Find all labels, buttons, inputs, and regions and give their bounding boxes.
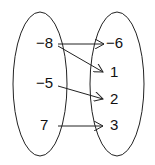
- range-value-2: 2: [110, 90, 118, 107]
- range-value-neg6: −6: [106, 34, 123, 51]
- domain-value-7: 7: [40, 116, 48, 133]
- domain-value-neg5: −5: [36, 74, 53, 91]
- domain-value-neg8: −8: [36, 34, 53, 51]
- mapping-diagram: −8 −5 7 −6 1 2 3: [0, 0, 155, 165]
- arrow-neg5-to-2: [58, 86, 103, 99]
- arrow-neg8-to-1: [58, 46, 103, 72]
- range-value-3: 3: [110, 116, 118, 133]
- range-value-1: 1: [110, 63, 118, 80]
